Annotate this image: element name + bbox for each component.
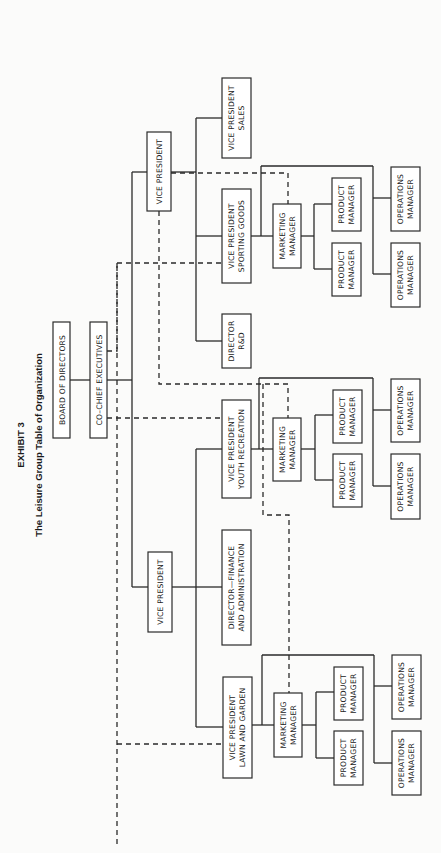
node-marketing-manager-youth[interactable]: MARKETING MANAGER (273, 418, 301, 481)
node-vice-president-bottom[interactable]: VICE PRESIDENT (148, 552, 172, 632)
node-label: CO–CHIEF EXECUTIVES (95, 334, 104, 425)
node-label-line1: PRODUCT (339, 674, 348, 713)
node-label-line1: PRODUCT (339, 739, 348, 778)
node-label-line2: SALES (237, 105, 246, 130)
node-label-line2: MANAGER (288, 216, 297, 256)
node-product-manager-youth-2[interactable]: PRODUCT MANAGER (333, 454, 362, 507)
node-label-line1: PRODUCT (338, 461, 347, 500)
node-operations-manager-sporting-1[interactable]: OPERATIONS MANAGER (391, 167, 420, 231)
node-label-line1: MARKETING (278, 426, 287, 473)
node-label-line2: MANAGER (347, 249, 356, 289)
node-vp-sales[interactable]: VICE PRESIDENT SALES (222, 78, 251, 158)
node-label-line2: MANAGER (348, 396, 357, 436)
node-director-finance-administration[interactable]: DIRECTOR—FINANCE AND ADMINISTRATION (222, 530, 251, 645)
node-label-line2: SPORTING GOODS (237, 200, 246, 272)
node-label-line1: MARKETING (278, 212, 287, 259)
node-label-line1: OPERATIONS (396, 174, 405, 224)
org-chart: EXHIBIT 3 The Leisure Group Table of Org… (0, 0, 441, 853)
exhibit-label: EXHIBIT 3 (15, 422, 26, 467)
node-label-line2: MANAGER (407, 667, 416, 707)
node-label-line2: MANAGER (349, 738, 358, 778)
node-label-line2: MANAGER (406, 390, 415, 430)
node-label-line2: MANAGER (407, 743, 416, 783)
node-label-line1: VICE PRESIDENT (228, 695, 237, 761)
node-label-line1: OPERATIONS (397, 662, 406, 712)
node-operations-manager-youth-1[interactable]: OPERATIONS MANAGER (391, 379, 420, 442)
dotted-connectors (107, 173, 289, 845)
node-operations-manager-lawn-2[interactable]: OPERATIONS MANAGER (392, 731, 421, 795)
node-label-line2: AND ADMINISTRATION (237, 543, 246, 631)
node-marketing-manager-sporting[interactable]: MARKETING MANAGER (273, 204, 301, 268)
node-marketing-manager-lawn[interactable]: MARKETING MANAGER (274, 693, 302, 757)
node-label-line1: DIRECTOR—FINANCE (227, 546, 236, 629)
node-co-chief-executives[interactable]: CO–CHIEF EXECUTIVES (90, 322, 107, 438)
node-label-line2: MANAGER (288, 429, 297, 469)
node-label-line1: DIRECTOR (227, 320, 236, 361)
node-label-line1: PRODUCT (337, 185, 346, 224)
node-product-manager-sporting-1[interactable]: PRODUCT MANAGER (332, 178, 361, 231)
node-label-line1: MARKETING (279, 701, 288, 748)
node-product-manager-lawn-1[interactable]: PRODUCT MANAGER (334, 667, 363, 720)
node-director-rd[interactable]: DIRECTOR R&D (222, 314, 251, 368)
node-label: VICE PRESIDENT (155, 139, 164, 205)
node-label-line1: OPERATIONS (396, 385, 405, 435)
node-product-manager-youth-1[interactable]: PRODUCT MANAGER (333, 390, 362, 443)
node-label-line1: PRODUCT (338, 397, 347, 436)
node-vp-sporting-goods[interactable]: VICE PRESIDENT SPORTING GOODS (222, 189, 251, 283)
node-operations-manager-youth-2[interactable]: OPERATIONS MANAGER (391, 454, 420, 519)
node-label-line2: MANAGER (406, 255, 415, 295)
node-label-line2: MANAGER (289, 705, 298, 745)
node-vp-lawn-and-garden[interactable]: VICE PRESIDENT LAWN AND GARDEN (223, 677, 252, 778)
node-label-line2: R&D (237, 332, 246, 350)
node-label-line1: OPERATIONS (397, 738, 406, 788)
node-vice-president-top[interactable]: VICE PRESIDENT (147, 132, 171, 211)
node-label-line2: MANAGER (349, 673, 358, 713)
node-label-line2: MANAGER (406, 466, 415, 506)
node-label-line2: YOUTH RECREATION (237, 409, 246, 490)
chart-title: The Leisure Group Table of Organization (33, 353, 44, 537)
node-product-manager-lawn-2[interactable]: PRODUCT MANAGER (334, 731, 363, 785)
node-label-line1: PRODUCT (337, 250, 346, 289)
node-label-line1: OPERATIONS (396, 461, 405, 511)
node-label-line1: VICE PRESIDENT (227, 203, 236, 269)
node-label-line2: MANAGER (406, 179, 415, 219)
node-board-of-directors[interactable]: BOARD OF DIRECTORS (53, 322, 70, 438)
node-label-line2: MANAGER (347, 184, 356, 224)
node-label-line2: MANAGER (348, 460, 357, 500)
node-label: BOARD OF DIRECTORS (58, 335, 67, 425)
org-chart-canvas: EXHIBIT 3 The Leisure Group Table of Org… (0, 0, 441, 853)
node-label-line1: VICE PRESIDENT (227, 416, 236, 482)
node-operations-manager-lawn-1[interactable]: OPERATIONS MANAGER (392, 655, 421, 719)
node-label-line1: VICE PRESIDENT (227, 85, 236, 151)
node-label-line2: LAWN AND GARDEN (238, 688, 247, 768)
node-label-line1: OPERATIONS (396, 250, 405, 300)
node-product-manager-sporting-2[interactable]: PRODUCT MANAGER (332, 243, 361, 296)
node-label: VICE PRESIDENT (156, 559, 165, 625)
node-vp-youth-recreation[interactable]: VICE PRESIDENT YOUTH RECREATION (222, 400, 251, 498)
node-operations-manager-sporting-2[interactable]: OPERATIONS MANAGER (391, 243, 420, 307)
